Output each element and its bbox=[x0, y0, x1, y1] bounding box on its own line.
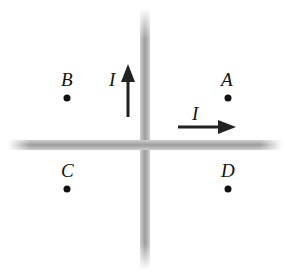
point-b-dot bbox=[64, 95, 71, 102]
point-c-dot bbox=[64, 186, 71, 193]
point-a-dot bbox=[225, 95, 232, 102]
point-c-label: C bbox=[61, 161, 74, 180]
horizontal-wire bbox=[8, 140, 282, 150]
diagram-canvas: I I A B C D bbox=[0, 0, 284, 272]
point-b-label: B bbox=[61, 70, 73, 89]
vertical-wire bbox=[140, 8, 150, 270]
current-label-vertical: I bbox=[109, 70, 115, 89]
current-arrow-right-icon bbox=[178, 120, 236, 134]
point-d-label: D bbox=[221, 161, 235, 180]
point-d-dot bbox=[225, 186, 232, 193]
current-arrow-up-icon bbox=[121, 64, 135, 117]
point-a-label: A bbox=[221, 70, 233, 89]
current-label-horizontal: I bbox=[192, 104, 198, 123]
wire-diagram bbox=[0, 0, 284, 272]
